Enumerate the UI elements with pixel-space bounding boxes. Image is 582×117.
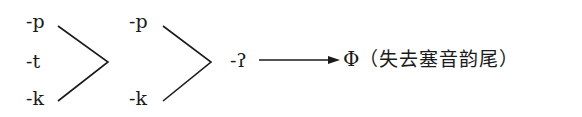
diagram-lines <box>0 0 582 117</box>
merge-bracket-1 <box>58 26 108 101</box>
merge-bracket-2 <box>163 26 211 101</box>
arrow-head-icon <box>328 56 340 64</box>
